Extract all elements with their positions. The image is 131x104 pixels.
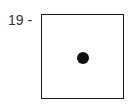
figure-number-label: 19 - [8, 12, 32, 28]
center-dot-icon [77, 52, 89, 64]
figure-19: 19 - [0, 0, 131, 104]
